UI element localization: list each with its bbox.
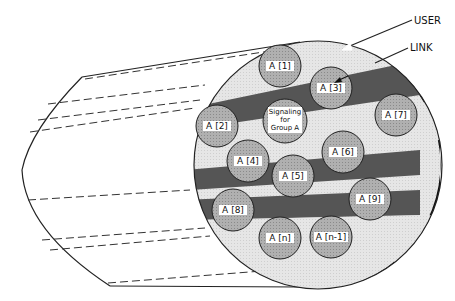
- user-a3: A [3]: [310, 67, 352, 109]
- svg-text:for: for: [280, 116, 290, 124]
- svg-text:A [4]: A [4]: [237, 156, 259, 166]
- svg-text:A [6]: A [6]: [332, 147, 354, 157]
- svg-text:A [3]: A [3]: [320, 83, 342, 93]
- user-an: A [n]: [259, 217, 301, 259]
- svg-text:A [9]: A [9]: [359, 194, 381, 204]
- link-annotation: LINK: [410, 42, 433, 53]
- center-signaling: Signaling for Group A: [263, 99, 307, 143]
- user-a9: A [9]: [349, 178, 391, 220]
- svg-text:A [8]: A [8]: [222, 205, 244, 215]
- svg-text:A [2]: A [2]: [206, 121, 228, 131]
- svg-text:A [n-1]: A [n-1]: [316, 232, 347, 242]
- svg-text:A [1]: A [1]: [269, 61, 291, 71]
- user-a8: A [8]: [212, 189, 254, 231]
- user-a5: A [5]: [272, 155, 314, 197]
- user-an1: A [n-1]: [310, 216, 352, 258]
- user-a4: A [4]: [227, 140, 269, 182]
- user-a7: A [7]: [375, 94, 417, 136]
- svg-text:Signaling: Signaling: [269, 108, 301, 116]
- svg-text:A [n]: A [n]: [269, 233, 291, 243]
- svg-text:Group A: Group A: [271, 124, 300, 132]
- user-annotation: USER: [414, 15, 441, 26]
- cable-diagram: A [1] A [3] A [2] Signaling for Group A …: [0, 0, 455, 301]
- svg-text:A [5]: A [5]: [282, 171, 304, 181]
- user-a2: A [2]: [196, 105, 238, 147]
- user-a6: A [6]: [322, 131, 364, 173]
- user-a1: A [1]: [259, 45, 301, 87]
- svg-text:A [7]: A [7]: [385, 110, 407, 120]
